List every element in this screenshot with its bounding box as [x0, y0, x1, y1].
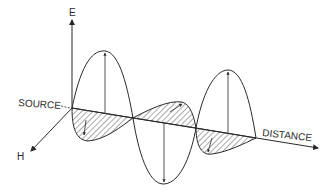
- em-wave-diagram: E H SOURCE DISTANCE: [0, 0, 333, 196]
- source-label: SOURCE: [18, 97, 62, 111]
- h-axis-label: H: [17, 151, 24, 162]
- e-axis-label: E: [69, 7, 76, 18]
- h-axis: [31, 108, 72, 151]
- distance-label: DISTANCE: [262, 127, 313, 143]
- source-pointer: [61, 106, 70, 108]
